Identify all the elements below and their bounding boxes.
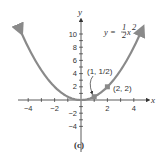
equation-lhs: y = [103,27,116,37]
y-tick-label: 10 [69,30,77,39]
x-tick-label: 4 [132,104,136,113]
y-tick-label: 6 [73,56,77,65]
x-tick-label: −4 [24,104,33,113]
x-tick-label: 2 [105,104,109,113]
equation-label: y = 1 2 x 2 [103,22,137,40]
equation-exponent: 2 [132,22,137,32]
x-axis-label: x [150,95,155,105]
equation-var: x [126,27,131,37]
data-point [105,84,110,89]
annotation-arrow [90,76,93,93]
x-tick-label: −2 [50,104,59,113]
y-tick-label: 4 [73,69,77,78]
y-axis-label: y [77,7,82,17]
y-tick-label: −4 [68,122,77,131]
y-tick-label: 8 [73,43,77,52]
y-tick-label: −2 [68,109,77,118]
point-label-1-half: (1, 1/2) [87,67,113,76]
point-label-2-2: (2, 2) [113,84,132,93]
data-point [92,94,97,99]
figure-caption: (c) [74,140,84,150]
parabola-chart: −4−224 −4−2246810 x y y = 1 2 x 2 (1, 1/… [0,0,162,160]
y-tick-label: 2 [73,82,77,91]
